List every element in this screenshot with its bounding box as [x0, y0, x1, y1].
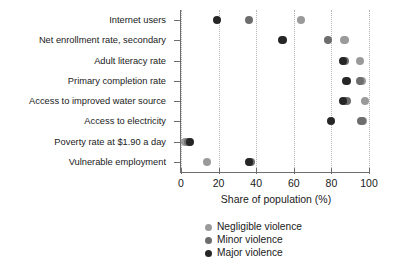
- data-point: [340, 36, 348, 44]
- y-axis-tick: [174, 162, 180, 163]
- data-point: [213, 16, 221, 24]
- y-axis-tick: [174, 40, 180, 41]
- y-axis-tick: [174, 142, 180, 143]
- y-axis-tick: [174, 81, 180, 82]
- category-label: Access to improved water source: [29, 97, 166, 106]
- category-label-row: Adult literacy rate: [0, 55, 172, 67]
- category-label: Internet users: [109, 16, 166, 25]
- category-label: Primary completion rate: [68, 77, 166, 86]
- y-axis-tick: [174, 20, 180, 21]
- x-axis-tick: [331, 168, 332, 174]
- x-axis-tick: [219, 168, 220, 174]
- data-point: [245, 158, 253, 166]
- category-label-row: Vulnerable employment: [0, 156, 172, 168]
- data-point: [203, 158, 211, 166]
- x-axis-tick: [181, 168, 182, 174]
- data-point: [327, 117, 335, 125]
- category-label-row: Primary completion rate: [0, 75, 172, 87]
- gridline: [331, 10, 332, 172]
- legend-item: Major violence: [205, 247, 302, 260]
- x-axis-tick-label: 80: [311, 177, 351, 189]
- data-point: [339, 57, 347, 65]
- category-label-row: Poverty rate at $1.90 a day: [0, 136, 172, 148]
- data-point: [356, 57, 364, 65]
- data-point: [186, 138, 194, 146]
- x-axis-tick: [294, 168, 295, 174]
- category-label: Net enrollment rate, secondary: [39, 36, 166, 45]
- category-label-row: Access to electricity: [0, 115, 172, 127]
- legend-swatch-minor-violence: [205, 237, 212, 244]
- data-point: [356, 77, 364, 85]
- category-label: Access to electricity: [84, 117, 166, 126]
- category-label: Poverty rate at $1.90 a day: [54, 138, 166, 147]
- chart-legend: Negligible violence Minor violence Major…: [205, 221, 302, 260]
- category-label: Vulnerable employment: [69, 158, 166, 167]
- plot-area: [181, 10, 369, 172]
- legend-item: Minor violence: [205, 234, 302, 247]
- x-axis-tick-label: 60: [274, 177, 314, 189]
- legend-label-major-violence: Major violence: [217, 248, 283, 258]
- legend-swatch-major-violence: [205, 250, 212, 257]
- dot-plot-chart: 020406080100 Internet usersNet enrollmen…: [0, 0, 395, 264]
- x-axis-tick-label: 100: [349, 177, 389, 189]
- x-axis-line: [180, 172, 370, 173]
- x-axis-tick: [256, 168, 257, 174]
- data-point: [342, 77, 350, 85]
- category-label-row: Internet users: [0, 14, 172, 26]
- x-axis-tick-label: 40: [236, 177, 276, 189]
- legend-label-minor-violence: Minor violence: [217, 235, 283, 245]
- y-axis-tick: [174, 101, 180, 102]
- data-point: [339, 97, 347, 105]
- data-point: [357, 117, 365, 125]
- x-axis-tick-label: 20: [199, 177, 239, 189]
- x-axis-title: Share of population (%): [181, 193, 371, 205]
- data-point: [245, 16, 253, 24]
- legend-swatch-negligible-violence: [205, 224, 212, 231]
- category-label-row: Access to improved water source: [0, 95, 172, 107]
- y-axis-spine: [180, 10, 181, 173]
- data-point: [297, 16, 305, 24]
- x-axis-tick: [369, 168, 370, 174]
- gridline: [181, 10, 182, 172]
- category-label-row: Net enrollment rate, secondary: [0, 34, 172, 46]
- y-axis-tick: [174, 121, 180, 122]
- x-axis-tick-label: 0: [161, 177, 201, 189]
- gridline: [369, 10, 370, 172]
- legend-item: Negligible violence: [205, 221, 302, 234]
- gridline: [219, 10, 220, 172]
- data-point: [278, 36, 286, 44]
- gridline: [294, 10, 295, 172]
- category-label: Adult literacy rate: [94, 57, 166, 66]
- y-axis-tick: [174, 61, 180, 62]
- legend-label-negligible-violence: Negligible violence: [217, 222, 302, 232]
- gridline: [256, 10, 257, 172]
